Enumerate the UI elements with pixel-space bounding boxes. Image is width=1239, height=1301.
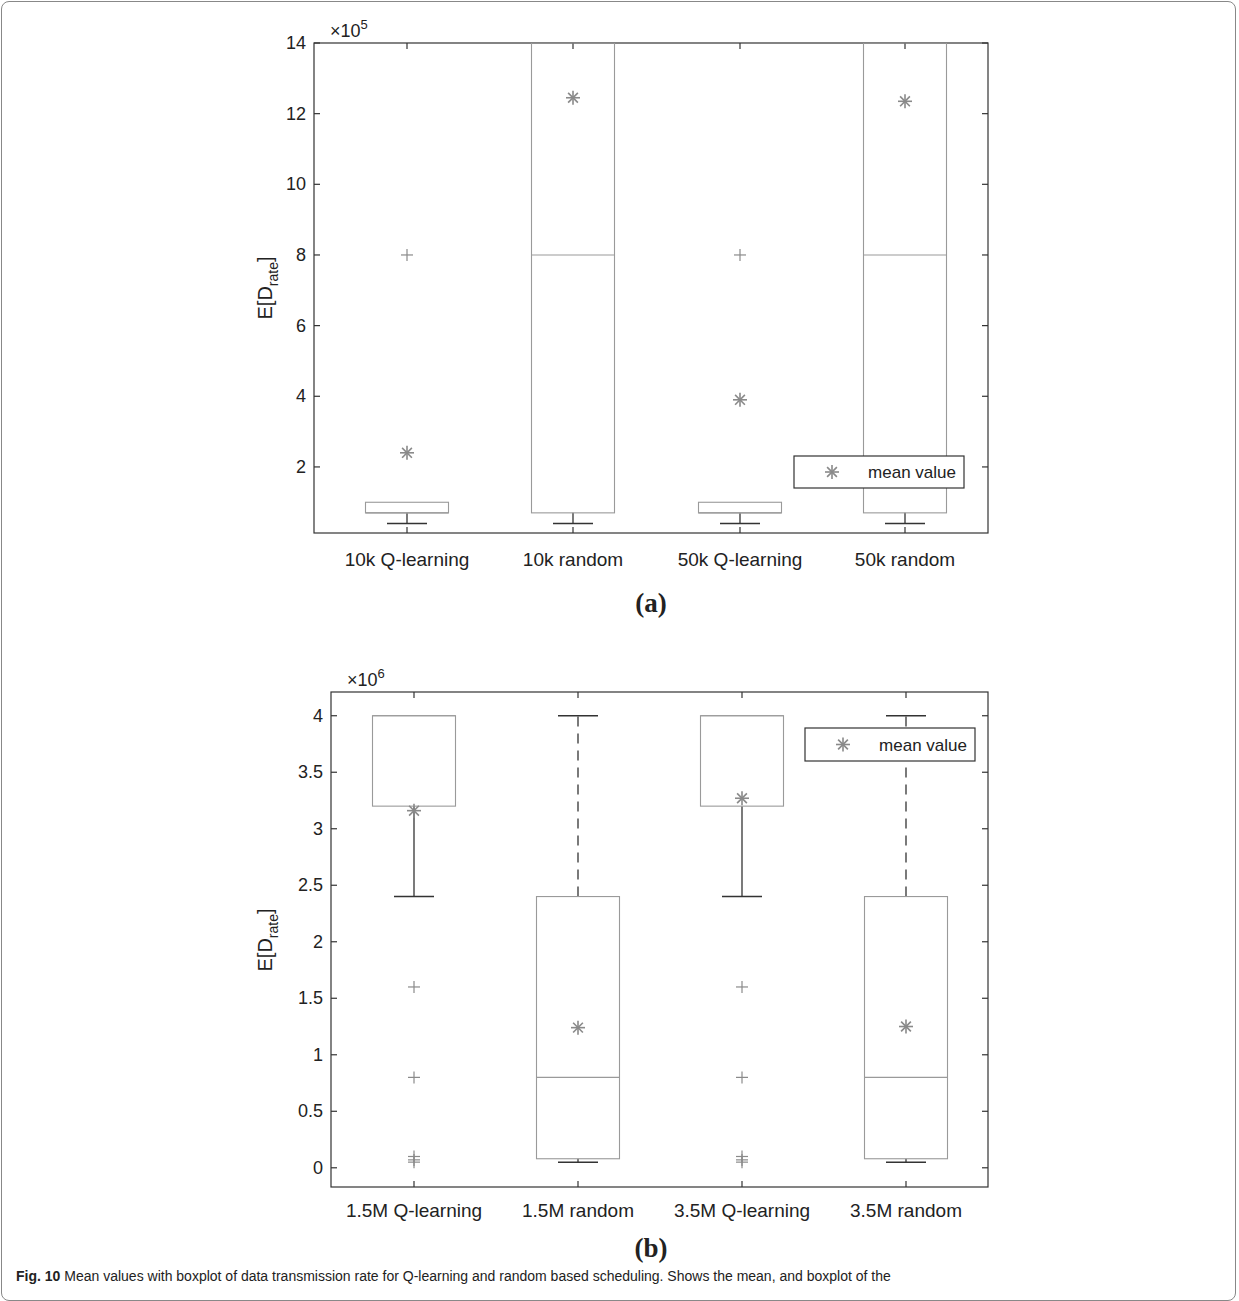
outlier-marker	[408, 1071, 420, 1083]
box-3	[865, 716, 948, 1162]
legend-label: mean value	[868, 463, 956, 482]
outlier-marker	[734, 249, 746, 261]
box-body	[366, 502, 449, 513]
y-tick-label: 0	[313, 1158, 323, 1178]
y-tick-label: 4	[296, 386, 306, 406]
plot-content	[373, 716, 948, 1168]
y-tick-label: 4	[313, 706, 323, 726]
y-tick-label: 12	[286, 104, 306, 124]
outlier-marker	[736, 981, 748, 993]
y-exponent-label: ×106	[347, 666, 385, 690]
outlier-marker	[408, 981, 420, 993]
caption-label: Fig. 10	[16, 1268, 60, 1284]
outlier-marker	[736, 1071, 748, 1083]
y-tick-label: 14	[286, 33, 306, 53]
y-tick-label: 10	[286, 174, 306, 194]
legend-asterisk-icon	[825, 465, 839, 479]
mean-marker	[571, 1021, 585, 1035]
outlier-marker	[736, 1156, 748, 1168]
x-category-label: 10k random	[523, 549, 623, 570]
figure-caption: Fig. 10 Mean values with boxplot of data…	[16, 1268, 891, 1284]
x-category-label: 3.5M Q-learning	[674, 1200, 810, 1221]
outlier-marker	[408, 1156, 420, 1168]
outlier-marker	[401, 249, 413, 261]
box-1	[532, 43, 615, 523]
mean-marker	[735, 791, 749, 805]
y-tick-label: 1.5	[298, 988, 323, 1008]
subfigure-label-b: (b)	[635, 1233, 668, 1264]
box-0	[366, 249, 449, 523]
legend-label: mean value	[879, 736, 967, 755]
plot-content	[366, 43, 947, 523]
legend: mean value	[794, 456, 964, 488]
x-category-label: 50k random	[855, 549, 955, 570]
y-tick-label: 2.5	[298, 875, 323, 895]
box-body	[864, 43, 947, 513]
y-tick-label: 1	[313, 1045, 323, 1065]
y-tick-label: 3.5	[298, 762, 323, 782]
mean-marker	[898, 94, 912, 108]
legend: mean value	[805, 728, 975, 761]
box-2	[699, 249, 782, 523]
plot-area	[331, 692, 988, 1187]
mean-marker	[733, 393, 747, 407]
y-exponent-label: ×105	[330, 17, 368, 41]
y-axis-label: E[Drate]	[254, 256, 281, 319]
mean-marker	[400, 446, 414, 460]
box-body	[532, 43, 615, 513]
box-0	[373, 716, 456, 1168]
caption-text: Mean values with boxplot of data transmi…	[64, 1268, 891, 1284]
y-tick-label: 2	[296, 457, 306, 477]
x-category-label: 10k Q-learning	[345, 549, 470, 570]
x-category-label: 50k Q-learning	[678, 549, 803, 570]
y-tick-label: 6	[296, 316, 306, 336]
x-category-label: 1.5M Q-learning	[346, 1200, 482, 1221]
box-2	[701, 716, 784, 1168]
box-body	[373, 716, 456, 806]
x-category-label: 1.5M random	[522, 1200, 634, 1221]
x-category-label: 3.5M random	[850, 1200, 962, 1221]
y-tick-label: 2	[313, 932, 323, 952]
subfigure-label-a: (a)	[635, 588, 666, 619]
mean-marker	[566, 91, 580, 105]
y-tick-label: 3	[313, 819, 323, 839]
chart-b: 00.511.522.533.54×106E[Drate]1.5M Q-lear…	[254, 666, 988, 1221]
box-1	[537, 716, 620, 1162]
mean-marker	[899, 1020, 913, 1034]
y-axis-label: E[Drate]	[254, 908, 281, 971]
box-3	[864, 43, 947, 523]
box-body	[699, 502, 782, 513]
chart-a: 2468101214×105E[Drate]10k Q-learning10k …	[254, 17, 988, 570]
y-tick-label: 8	[296, 245, 306, 265]
legend-asterisk-icon	[836, 738, 850, 752]
y-tick-label: 0.5	[298, 1101, 323, 1121]
